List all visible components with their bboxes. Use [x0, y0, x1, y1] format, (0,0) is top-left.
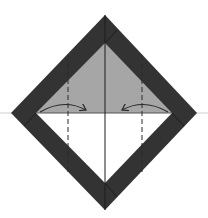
- origami-diagram: [0, 0, 208, 218]
